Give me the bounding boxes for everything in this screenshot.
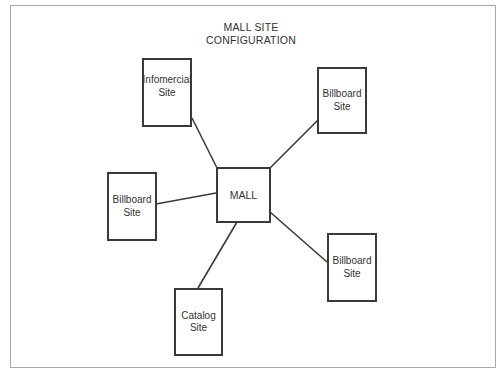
connector-infomercial-mall [192, 118, 217, 168]
node-catalog-site: Catalog Site [174, 288, 223, 356]
node-label: MALL [230, 189, 257, 202]
connector-catalog-mall [198, 222, 237, 288]
connector-billboard-bottom-right-mall [270, 212, 327, 262]
node-mall: MALL [216, 167, 271, 223]
node-billboard-site-bottom-right: Billboard Site [327, 233, 377, 302]
node-label: Billboard Site [113, 194, 152, 219]
node-billboard-site-left: Billboard Site [107, 172, 157, 241]
connector-billboard-left-mall [156, 193, 216, 204]
node-label: Billboard Site [333, 255, 372, 280]
node-billboard-site-top-right: Billboard Site [317, 67, 367, 134]
connector-billboard-top-right-mall [270, 120, 318, 168]
node-label: Catalog Site [181, 310, 215, 335]
node-label: Billboard Site [323, 88, 362, 113]
node-infomercial-site: Infomercial Site [142, 58, 192, 127]
node-label: Infomercial Site [143, 74, 192, 99]
